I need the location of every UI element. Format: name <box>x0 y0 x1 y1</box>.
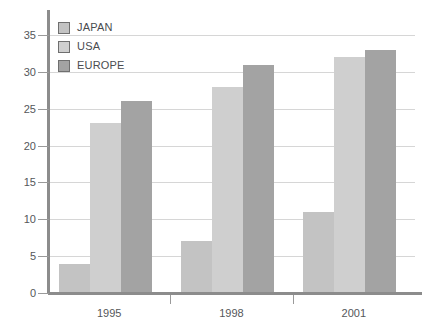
y-axis-tick-label: 30 <box>10 67 36 78</box>
x-axis-tick <box>170 295 171 304</box>
bar-japan-1995 <box>59 264 90 293</box>
legend-swatch-usa <box>58 41 70 53</box>
y-axis-tick <box>38 109 49 110</box>
y-axis-tick-label: 0 <box>10 288 36 299</box>
bar-japan-1998 <box>181 241 212 293</box>
legend-swatch-japan <box>58 22 70 34</box>
y-axis-tick <box>38 182 49 183</box>
x-axis-tick-label: 1995 <box>48 308 170 319</box>
y-axis-line <box>47 10 50 294</box>
bar-usa-1998 <box>212 87 243 293</box>
legend-item-usa: USA <box>58 38 125 55</box>
bar-europe-1995 <box>121 101 152 293</box>
bar-usa-1995 <box>90 123 121 293</box>
y-axis-labels: 05101520253035 <box>0 0 36 331</box>
bar-europe-1998 <box>243 65 274 294</box>
legend-item-japan: JAPAN <box>58 19 125 36</box>
legend: JAPAN USA EUROPE <box>58 19 125 76</box>
x-axis-tick <box>293 295 294 304</box>
legend-label-japan: JAPAN <box>77 22 113 33</box>
legend-label-usa: USA <box>77 41 100 52</box>
legend-item-europe: EUROPE <box>58 57 125 74</box>
y-axis-tick-label: 20 <box>10 141 36 152</box>
bar-usa-2001 <box>334 57 365 293</box>
y-axis-tick <box>38 72 49 73</box>
y-axis-tick <box>38 146 49 147</box>
x-axis-tick-label: 1998 <box>170 308 292 319</box>
x-axis-line <box>48 292 422 295</box>
x-axis-tick-label: 2001 <box>293 308 415 319</box>
y-axis-tick <box>38 219 49 220</box>
legend-label-europe: EUROPE <box>77 60 125 71</box>
bar-europe-2001 <box>365 50 396 293</box>
bar-chart: 05101520253035 199519982001 JAPAN USA EU… <box>0 0 435 331</box>
legend-swatch-europe <box>58 60 70 72</box>
y-axis-tick <box>38 35 49 36</box>
y-axis-tick-label: 25 <box>10 104 36 115</box>
y-axis-tick-label: 15 <box>10 177 36 188</box>
y-axis-tick <box>38 293 49 294</box>
y-axis-tick-label: 35 <box>10 30 36 41</box>
y-axis-tick-label: 5 <box>10 251 36 262</box>
bar-japan-2001 <box>303 212 334 293</box>
y-axis-tick-label: 10 <box>10 214 36 225</box>
y-axis-tick <box>38 256 49 257</box>
